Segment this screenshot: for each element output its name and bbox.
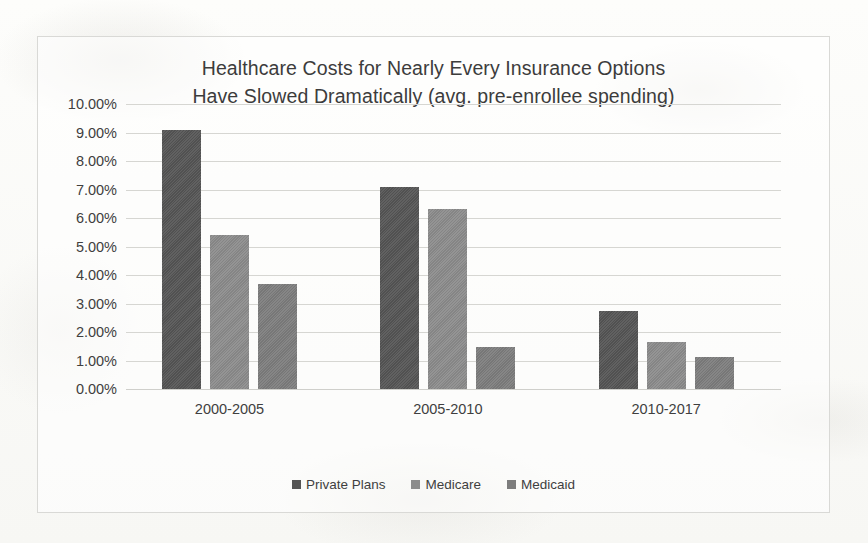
legend-swatch-icon bbox=[411, 480, 420, 489]
legend-item-private-plans[interactable]: Private Plans bbox=[292, 477, 386, 492]
legend-swatch-icon bbox=[507, 480, 516, 489]
bar-medicaid-2010-2017 bbox=[695, 357, 734, 389]
y-axis-tick-label: 9.00% bbox=[76, 125, 117, 141]
bars-layer bbox=[126, 104, 781, 389]
legend-label: Private Plans bbox=[306, 477, 386, 492]
bar-private-plans-2000-2005 bbox=[162, 130, 201, 389]
legend-item-medicare[interactable]: Medicare bbox=[411, 477, 481, 492]
x-axis-tick-label: 2010-2017 bbox=[631, 401, 700, 417]
y-axis-tick-label: 0.00% bbox=[76, 381, 117, 397]
chart-frame: Healthcare Costs for Nearly Every Insura… bbox=[37, 36, 830, 513]
x-axis-tick-label: 2005-2010 bbox=[413, 401, 482, 417]
legend-item-medicaid[interactable]: Medicaid bbox=[507, 477, 575, 492]
bar-private-plans-2005-2010 bbox=[380, 187, 419, 389]
y-axis-tick-label: 6.00% bbox=[76, 210, 117, 226]
bar-medicaid-2000-2005 bbox=[258, 284, 297, 389]
y-axis-tick-label: 7.00% bbox=[76, 182, 117, 198]
bar-private-plans-2010-2017 bbox=[599, 311, 638, 389]
y-axis-tick-label: 3.00% bbox=[76, 296, 117, 312]
x-axis-tick-label: 2000-2005 bbox=[195, 401, 264, 417]
bar-medicare-2005-2010 bbox=[428, 209, 467, 389]
plot-area: 10.00%9.00%8.00%7.00%6.00%5.00%4.00%3.00… bbox=[126, 104, 781, 389]
gridline bbox=[126, 389, 781, 390]
chart-title: Healthcare Costs for Nearly Every Insura… bbox=[38, 54, 829, 110]
bar-medicare-2010-2017 bbox=[647, 342, 686, 389]
y-axis-tick-label: 2.00% bbox=[76, 324, 117, 340]
y-axis-tick-label: 4.00% bbox=[76, 267, 117, 283]
y-axis-tick-label: 8.00% bbox=[76, 153, 117, 169]
y-axis-tick-label: 10.00% bbox=[68, 96, 117, 112]
y-axis-tick-label: 1.00% bbox=[76, 353, 117, 369]
legend-label: Medicare bbox=[425, 477, 481, 492]
bar-medicare-2000-2005 bbox=[210, 235, 249, 389]
legend-swatch-icon bbox=[292, 480, 301, 489]
bar-medicaid-2005-2010 bbox=[476, 347, 515, 389]
y-axis-tick-label: 5.00% bbox=[76, 239, 117, 255]
chart-legend: Private PlansMedicareMedicaid bbox=[38, 477, 829, 492]
legend-label: Medicaid bbox=[521, 477, 575, 492]
